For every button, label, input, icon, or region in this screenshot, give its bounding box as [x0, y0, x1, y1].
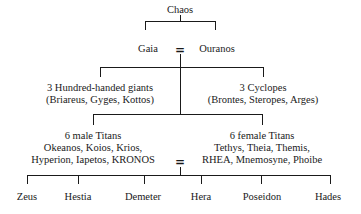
node-demeter: Demeter	[125, 191, 161, 202]
connector-line	[145, 21, 216, 22]
node-hades: Hades	[315, 191, 341, 202]
connector-line	[93, 114, 94, 125]
connector-line	[144, 175, 145, 184]
node-hestia: Hestia	[65, 191, 92, 202]
node-female-titans-line2: RHEA, Mnemosyne, Phoibe	[202, 154, 322, 165]
node-gaia: Gaia	[138, 43, 158, 54]
node-hundred-handed-members: (Briareus, Gyges, Kottos)	[46, 94, 154, 105]
node-chaos: Chaos	[167, 4, 193, 15]
node-cyclopes-title: 3 Cyclopes	[240, 82, 287, 93]
connector-line	[100, 67, 264, 68]
node-hera: Hera	[191, 191, 211, 202]
node-zeus: Zeus	[17, 191, 37, 202]
connector-line	[27, 175, 28, 184]
connector-line	[180, 167, 181, 175]
node-male-titans-line2: Hyperion, Iapetos, KRONOS	[31, 154, 155, 165]
connector-line	[262, 114, 263, 125]
connector-line	[145, 21, 146, 30]
connector-line	[201, 175, 202, 184]
connector-line	[100, 67, 101, 77]
connector-line	[215, 21, 216, 30]
connector-line	[93, 114, 263, 115]
connector-line	[180, 54, 181, 115]
node-female-titans-line1: Tethys, Theia, Themis,	[214, 142, 310, 153]
node-poseidon: Poseidon	[243, 191, 282, 202]
connector-line	[261, 175, 262, 184]
connector-line	[263, 67, 264, 77]
connector-line	[78, 175, 79, 184]
node-male-titans-line1: Okeanos, Koios, Krios,	[44, 142, 142, 153]
node-ouranos: Ouranos	[199, 43, 235, 54]
node-cyclopes-members: (Brontes, Steropes, Arges)	[208, 94, 319, 105]
marriage-symbol: =	[175, 157, 185, 167]
node-female-titans-title: 6 female Titans	[230, 130, 295, 141]
node-male-titans-title: 6 male Titans	[65, 130, 122, 141]
connector-line	[27, 175, 331, 176]
node-hundred-handed-title: 3 Hundred-handed giants	[47, 82, 153, 93]
connector-line	[330, 175, 331, 184]
